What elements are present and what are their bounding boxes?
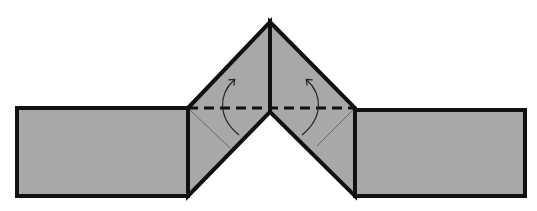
- origami-diagram: [0, 0, 537, 211]
- right-rectangle-panel: [355, 110, 525, 196]
- right-arm-flap: [270, 22, 355, 196]
- left-rectangle-panel: [17, 108, 188, 196]
